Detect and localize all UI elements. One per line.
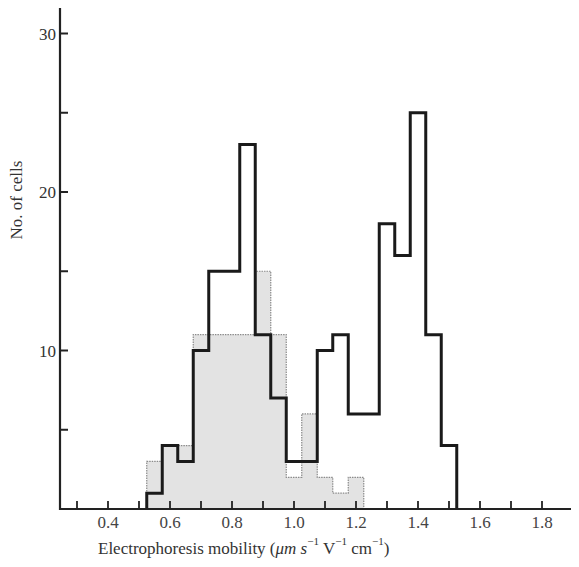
- x-tick-label: 0.4: [97, 513, 119, 532]
- x-axis-exp-3: −1: [372, 535, 384, 547]
- x-tick-label: 1.2: [345, 513, 366, 532]
- x-axis-unit-3: cm: [347, 539, 372, 558]
- x-axis-title-main: Electrophoresis mobility (: [98, 539, 276, 558]
- x-tick-label: 1.6: [469, 513, 490, 532]
- x-axis-exp-2: −1: [335, 535, 347, 547]
- x-tick-label: 1.8: [531, 513, 552, 532]
- histogram-chart: 1020300.40.60.81.01.21.41.61.8: [0, 0, 579, 567]
- x-axis-title-close: ): [384, 539, 390, 558]
- x-axis-exp-1: −1: [307, 535, 319, 547]
- x-tick-label: 0.6: [159, 513, 180, 532]
- x-tick-label: 1.4: [407, 513, 429, 532]
- y-tick-label: 10: [39, 342, 56, 361]
- x-axis-title: Electrophoresis mobility (μm s−1 V−1 cm−…: [98, 537, 389, 559]
- x-axis-unit-2: V: [319, 539, 335, 558]
- y-tick-label: 30: [39, 25, 56, 44]
- y-axis-title-text: No. of cells: [7, 161, 27, 240]
- y-tick-label: 20: [39, 183, 56, 202]
- x-tick-label: 1.0: [283, 513, 304, 532]
- x-tick-label: 0.8: [221, 513, 242, 532]
- x-axis-unit-1: μm s: [276, 539, 308, 558]
- y-axis-title: No. of cells: [2, 100, 32, 300]
